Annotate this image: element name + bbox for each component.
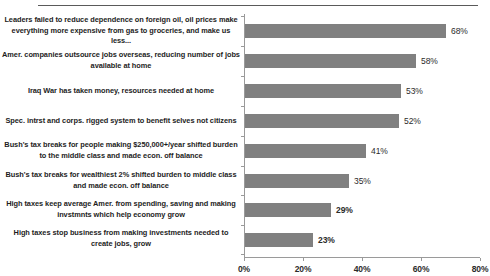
bar-value-label: 29% [336,205,353,215]
x-axis-tick [362,258,363,261]
x-axis-tick [480,258,481,261]
y-axis-tick [241,136,244,137]
bar[interactable] [245,203,331,217]
bar[interactable] [245,144,366,158]
y-axis-line [244,14,245,258]
category-label: High taxes keep average Amer. from spend… [2,199,240,220]
plot-area: 68% 58% 53% 52% 41% 35% 29% 23% 0% 20% 4… [244,14,480,258]
bar[interactable] [245,24,446,38]
x-axis-tick-label: 0% [238,264,250,274]
bar-value-label: 52% [404,116,421,126]
bar-value-label: 68% [451,26,468,36]
bar-chart: Leaders failed to reduce dependence on f… [0,0,490,276]
x-axis-tick-label: 20% [295,264,312,274]
category-label: High taxes stop business from making inv… [2,228,240,249]
bar-value-label: 58% [421,56,438,66]
y-axis-tick [241,225,244,226]
y-axis-tick [241,76,244,77]
bar[interactable] [245,54,416,68]
y-axis-tick [241,254,244,255]
y-axis-tick [241,106,244,107]
bar-value-label: 23% [318,235,335,245]
bar[interactable] [245,174,349,188]
category-label: Leaders failed to reduce dependence on f… [2,15,240,47]
x-axis-tick [244,258,245,261]
category-label: Bush's tax breaks for people making $250… [2,140,240,161]
category-label: Iraq War has taken money, resources need… [2,86,240,97]
y-axis-tick [241,46,244,47]
x-axis-tick-label: 60% [413,264,430,274]
x-axis-tick [421,258,422,261]
bar[interactable] [245,84,401,98]
y-axis-tick [241,16,244,17]
category-label: Amer. companies outsource jobs overseas,… [2,50,240,71]
x-axis-tick [303,258,304,261]
bar-value-label: 35% [354,176,371,186]
bar-value-label: 41% [371,146,388,156]
x-axis-tick-label: 80% [472,264,489,274]
bar-value-label: 53% [406,86,423,96]
y-axis-tick [241,195,244,196]
bar[interactable] [245,233,313,247]
y-axis-tick [241,166,244,167]
x-axis-tick-label: 40% [354,264,371,274]
category-label: Bush's tax breaks for wealthiest 2% shif… [2,170,240,191]
bar[interactable] [245,114,399,128]
category-label: Spec. intrst and corps. rigged system to… [2,116,240,127]
